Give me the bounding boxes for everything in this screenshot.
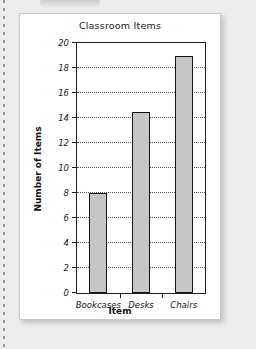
bar-chairs bbox=[175, 56, 193, 294]
top-edge-artifact bbox=[40, 0, 100, 8]
y-axis-tick-label: 0 bbox=[64, 288, 69, 298]
y-axis-tick-label: 6 bbox=[64, 213, 69, 223]
bar-bookcases bbox=[89, 193, 107, 293]
y-axis-tick-label: 14 bbox=[58, 113, 69, 123]
notebook-margin-rule bbox=[3, 0, 5, 349]
y-axis-title: Number of Items bbox=[33, 126, 43, 211]
y-axis-tick bbox=[72, 117, 77, 118]
bar-desks bbox=[132, 112, 150, 293]
y-axis-tick-label: 20 bbox=[58, 38, 69, 48]
y-axis-tick bbox=[72, 292, 77, 293]
y-axis-tick-label: 10 bbox=[58, 163, 69, 173]
y-axis-tick bbox=[72, 242, 77, 243]
chart-paper-card: Classroom Items Number of Items 02468101… bbox=[19, 13, 221, 320]
y-axis-tick bbox=[72, 142, 77, 143]
chart-title: Classroom Items bbox=[20, 20, 220, 31]
x-axis-tick bbox=[120, 293, 121, 298]
y-axis-tick bbox=[72, 167, 77, 168]
y-axis-tick-label: 16 bbox=[58, 88, 69, 98]
y-axis-tick-label: 2 bbox=[64, 263, 69, 273]
y-axis-tick-label: 18 bbox=[58, 63, 69, 73]
plot-area: 02468101214161820 BookcasesDesksChairs bbox=[76, 42, 206, 294]
y-axis-tick bbox=[72, 267, 77, 268]
y-axis-tick-label: 12 bbox=[58, 138, 69, 148]
y-axis-tick bbox=[72, 217, 77, 218]
x-axis-tick bbox=[162, 293, 163, 298]
y-axis-tick-label: 8 bbox=[64, 188, 69, 198]
y-axis-tick bbox=[72, 67, 77, 68]
x-axis-title: Item bbox=[20, 306, 220, 316]
y-axis-tick bbox=[72, 42, 77, 43]
y-axis-tick bbox=[72, 192, 77, 193]
y-axis-tick bbox=[72, 92, 77, 93]
y-axis-tick-label: 4 bbox=[64, 238, 69, 248]
